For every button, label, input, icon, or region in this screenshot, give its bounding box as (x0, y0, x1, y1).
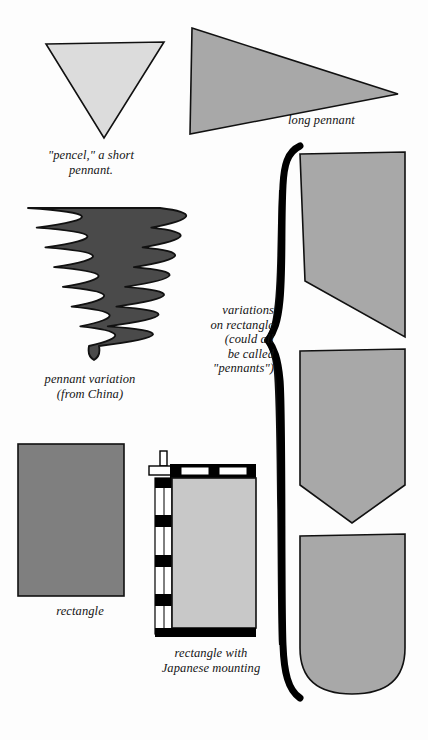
variations-brace (264, 146, 300, 698)
caption-long-pennant: long pennant (288, 113, 416, 128)
variation-pointed-shape (300, 349, 405, 523)
variation-rounded-shape (300, 534, 405, 694)
figure-plain-rectangle (18, 444, 124, 596)
figure-japanese-mounting (149, 451, 256, 637)
plain-rectangle-shape (18, 444, 124, 596)
pencel-triangle-shape (46, 42, 164, 138)
caption-china-pennant: pennant variation (from China) (6, 372, 174, 401)
caption-japanese-mounting: rectangle with Japanese mounting (140, 646, 282, 675)
figure-variation-slant (300, 152, 405, 337)
mount-bottom-band (155, 628, 256, 637)
brace-weight-accent (264, 190, 285, 645)
variation-slant-shape (300, 152, 405, 337)
japanese-mounting-panel (172, 478, 256, 628)
caption-rectangle: rectangle (18, 604, 142, 619)
mount-rod-post (160, 451, 167, 466)
figure-variation-rounded (300, 534, 405, 694)
caption-pencel: "pencel," a short pennant. (18, 148, 164, 177)
mount-top-slot-right (219, 467, 247, 475)
figure-variation-pointed (300, 349, 405, 523)
figure-pencel-triangle (46, 42, 164, 138)
mount-top-slot-left (181, 467, 209, 475)
caption-variations-brace: variations on rectangle (could all be ca… (150, 303, 274, 376)
